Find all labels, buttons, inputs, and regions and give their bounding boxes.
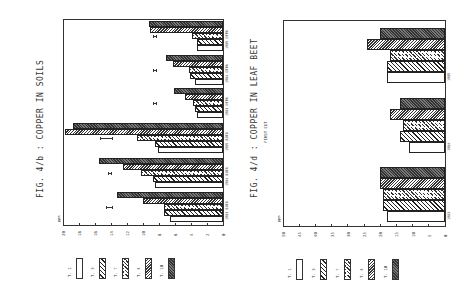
fig4d-subtitle: FIRST CUT: [263, 121, 268, 143]
bar-t1: [387, 211, 445, 222]
bar-t3: [195, 106, 223, 112]
axis-tick-label: 4: [189, 234, 194, 236]
axis-tick: [63, 223, 64, 226]
bar-t3: [383, 200, 445, 211]
bar-t10: [149, 21, 223, 27]
axis-tick-label: 50: [281, 232, 286, 237]
bar-t4: [380, 178, 445, 189]
bar-t7: [189, 67, 223, 73]
bar-t7: [192, 33, 223, 39]
axis-tick-label: 10: [411, 232, 416, 237]
fig4d-unit: ppm: [277, 216, 281, 222]
fig4d-legend-label: T. 4: [359, 268, 364, 278]
axis-tick: [143, 223, 144, 226]
axis-tick-label: 5: [427, 235, 432, 237]
axis-tick-label: 0: [221, 234, 226, 236]
fig4b-legend-swatch: [76, 258, 83, 279]
fig4b-legend-swatch: [99, 258, 106, 279]
error-bar: [153, 70, 158, 71]
bar-t7: [137, 135, 223, 141]
fig4b-legend-label: T. 4: [136, 267, 141, 277]
bar-t7: [141, 170, 223, 176]
axis-tick: [79, 223, 80, 226]
bar-t1: [197, 112, 223, 118]
bar-t3: [155, 141, 223, 147]
fig4d-legend-swatch: [368, 259, 375, 280]
fig4d-legend-label: T. 1: [287, 268, 292, 278]
bar-t10: [117, 192, 223, 198]
bar-t7: [403, 120, 445, 131]
bar-t3: [190, 73, 223, 79]
axis-tick: [191, 223, 192, 226]
axis-tick: [95, 223, 96, 226]
bar-t1: [197, 45, 223, 51]
axis-tick-label: 18: [77, 231, 82, 236]
axis-tick-label: 20: [378, 232, 383, 237]
bar-t4: [150, 27, 223, 33]
axis-tick: [412, 224, 413, 227]
category-label: 1984 EDTA: [225, 167, 229, 186]
bar-t4: [123, 164, 223, 170]
axis-tick-label: 8: [157, 234, 162, 236]
axis-tick: [380, 224, 381, 227]
axis-tick-label: 35: [330, 232, 335, 237]
axis-tick-label: 2: [205, 234, 210, 236]
category-label: 1983: [447, 212, 451, 220]
axis-tick: [299, 224, 300, 227]
bar-t4: [65, 129, 223, 135]
bar-t1: [155, 182, 223, 188]
axis-tick-label: 6: [173, 234, 178, 236]
axis-tick-label: 20: [61, 231, 66, 236]
category-label: 1985: [447, 73, 451, 81]
error-bar: [153, 36, 158, 37]
bar-t10: [99, 158, 223, 164]
fig4b-legend-swatch: [122, 258, 129, 279]
axis-tick-label: 40: [313, 232, 318, 237]
axis-tick: [445, 224, 446, 227]
bar-t3: [387, 61, 445, 72]
axis-tick-label: 15: [394, 232, 399, 237]
bar-t10: [73, 123, 223, 129]
bar-t1: [409, 142, 445, 153]
bar-t10: [400, 98, 445, 109]
axis-tick: [283, 224, 284, 227]
bar-t3: [153, 176, 223, 182]
axis-tick: [364, 224, 365, 227]
axis-tick-label: 12: [125, 231, 130, 236]
bar-t4: [390, 109, 445, 120]
axis-tick: [175, 223, 176, 226]
axis-tick: [315, 224, 316, 227]
bar-t4: [173, 61, 223, 67]
fig4b-legend-label: T. 1: [67, 267, 72, 277]
axis-tick-label: 16: [93, 231, 98, 236]
bar-t1: [195, 79, 223, 85]
axis-tick-label: 14: [109, 231, 114, 236]
bar-t7: [390, 50, 445, 61]
axis-tick: [396, 224, 397, 227]
fig4d-legend-swatch: [320, 259, 327, 280]
fig4b-legend-label: T. 3: [90, 267, 95, 277]
axis-tick: [111, 223, 112, 226]
bar-t1: [158, 147, 223, 153]
category-label: 1985 DTPA: [225, 30, 229, 49]
bar-t3: [164, 210, 223, 216]
category-label: 1984 DTPA: [225, 64, 229, 83]
axis-tick: [159, 223, 160, 226]
axis-tick: [428, 224, 429, 227]
axis-tick: [127, 223, 128, 226]
category-label: 1983 DTPA: [225, 97, 229, 116]
error-bar: [100, 138, 113, 139]
bar-t4: [367, 39, 445, 50]
fig4d-legend-swatch: [296, 259, 303, 280]
fig4b-legend-swatch: [145, 258, 152, 279]
bar-t4: [143, 198, 223, 204]
bar-t10: [166, 55, 223, 61]
fig4d-legend-label: T. 10: [383, 266, 388, 278]
bar-t7: [193, 100, 223, 106]
axis-tick-label: 0: [443, 235, 448, 237]
fig4d-title: FIG. 4/d : COPPER IN LEAF BEET: [250, 39, 259, 199]
category-label: 1984: [447, 143, 451, 151]
bar-t3: [400, 131, 445, 142]
fig4b-unit: ppm: [57, 216, 61, 222]
bar-t7: [383, 189, 445, 200]
